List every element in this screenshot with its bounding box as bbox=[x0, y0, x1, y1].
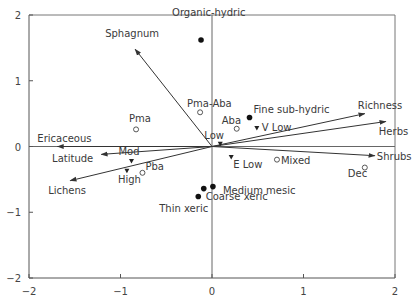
point-label: Low bbox=[204, 130, 224, 141]
point-label: Mixed bbox=[281, 155, 311, 166]
vector-label: Latitude bbox=[52, 153, 93, 164]
x-tick-label: 1 bbox=[300, 286, 306, 297]
point-label: Aba bbox=[222, 115, 241, 126]
x-tick-label: −2 bbox=[22, 286, 37, 297]
point-label: Pma-Aba bbox=[187, 98, 232, 109]
point-label: Thin xeric bbox=[158, 203, 208, 214]
filled-circle-marker bbox=[247, 115, 253, 121]
point-label: Coarse xeric bbox=[206, 191, 268, 202]
x-tick-label: 0 bbox=[209, 286, 215, 297]
point-label: Organic-hydric bbox=[172, 7, 246, 18]
open-circle-marker bbox=[198, 110, 203, 115]
y-tick-label: −2 bbox=[6, 273, 21, 284]
filled-circle-marker bbox=[210, 184, 216, 190]
point-label: Dec bbox=[348, 168, 367, 179]
vector-label: Shrubs bbox=[377, 151, 412, 162]
open-circle-marker bbox=[134, 127, 139, 132]
filled-circle-marker bbox=[195, 194, 201, 200]
point-label: Mod bbox=[118, 146, 139, 157]
point-label: Pma bbox=[129, 113, 151, 124]
vector-label: Ericaceous bbox=[37, 133, 91, 144]
y-tick-label: 2 bbox=[15, 10, 21, 21]
point-label: E Low bbox=[233, 159, 262, 170]
triangle-down-marker bbox=[254, 126, 259, 131]
x-tick-label: 2 bbox=[392, 286, 398, 297]
vector-label: Lichens bbox=[48, 185, 86, 196]
vector-label: Richness bbox=[358, 100, 402, 111]
open-circle-marker bbox=[274, 157, 279, 162]
point-label: High bbox=[118, 174, 141, 185]
point-label: Pba bbox=[145, 161, 164, 172]
y-tick-label: −1 bbox=[6, 207, 21, 218]
triangle-down-marker bbox=[124, 169, 129, 174]
x-tick-label: −1 bbox=[113, 286, 128, 297]
point-label: V Low bbox=[262, 122, 292, 133]
y-tick-label: 1 bbox=[15, 76, 21, 87]
point-label: Fine sub-hydric bbox=[254, 104, 330, 115]
open-circle-marker bbox=[234, 126, 239, 131]
vector-label: Sphagnum bbox=[105, 28, 159, 39]
plot-canvas: −2−1012210−1−2 SphagnumRichnessHerbsShru… bbox=[0, 0, 419, 302]
ordination-biplot: −2−1012210−1−2 SphagnumRichnessHerbsShru… bbox=[0, 0, 419, 302]
y-tick-label: 0 bbox=[15, 142, 21, 153]
vector-label: Herbs bbox=[379, 126, 408, 137]
triangle-down-marker bbox=[129, 159, 134, 164]
filled-circle-marker bbox=[198, 37, 204, 43]
